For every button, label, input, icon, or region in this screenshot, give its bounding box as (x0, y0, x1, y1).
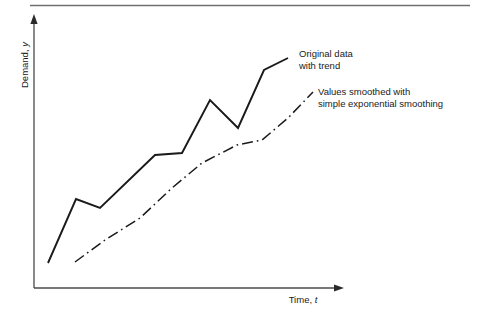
y-axis-label: Demand, y (19, 41, 30, 88)
arrow-up-icon (30, 14, 37, 24)
chart-svg: Demand, y Time, t Original data with tre… (0, 0, 486, 320)
annotation-smoothed-values-line2: simple exponential smoothing (318, 98, 443, 109)
annotation-smoothed-values-line1: Values smoothed with (318, 86, 410, 97)
y-axis-label-var: y (19, 41, 30, 48)
x-axis-label: Time, t (289, 294, 318, 305)
x-axis-label-var: t (315, 294, 318, 305)
series-line-original-data (48, 58, 288, 263)
arrow-right-icon (334, 284, 344, 291)
y-axis-label-text: Demand, (19, 47, 30, 88)
annotation-original-data-line2: with trend (298, 60, 340, 71)
x-axis-label-text: Time, (289, 294, 315, 305)
annotation-original-data-line1: Original data (299, 48, 354, 59)
series-line-smoothed-values (75, 92, 313, 262)
figure-container: Demand, y Time, t Original data with tre… (0, 0, 486, 320)
